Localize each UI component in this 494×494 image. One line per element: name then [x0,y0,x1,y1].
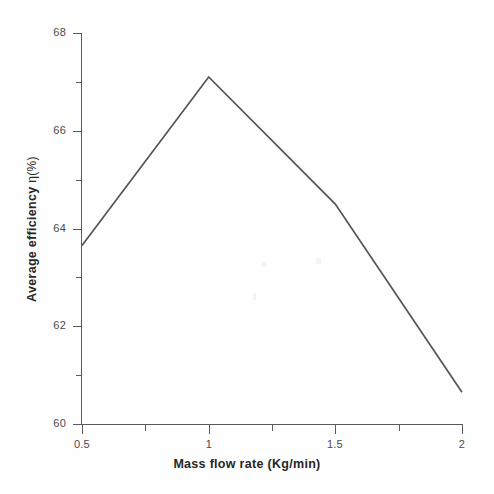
y-axis-title-symbol: η(%) [25,156,39,183]
x-axis-minor-tick [399,425,400,431]
y-axis-minor-tick [76,82,82,83]
y-axis-major-tick [73,424,82,425]
y-axis-minor-tick [76,277,82,278]
y-axis-minor-tick [76,180,82,181]
x-axis-major-tick [335,425,336,434]
x-axis-major-tick [209,425,210,434]
x-axis-tick-label: 1 [186,438,232,450]
y-axis-title: Average efficiency η(%) [25,114,39,344]
x-axis-tick-label: 2 [439,438,485,450]
x-axis-minor-tick [145,425,146,431]
y-axis-tick-label: 68 [22,26,66,40]
x-axis-minor-tick [272,425,273,431]
y-axis-minor-tick [76,375,82,376]
y-axis-title-text: Average efficiency [25,183,39,302]
y-axis-tick-label-text: 60 [26,417,66,429]
y-axis-major-tick [73,131,82,132]
y-axis-tick-label: 60 [22,417,66,431]
y-axis-major-tick [73,326,82,327]
y-axis-major-tick [73,229,82,230]
x-axis-tick-label: 1.5 [312,438,358,450]
scan-artifact [262,262,266,267]
x-axis-major-tick [82,425,83,434]
scan-artifact [253,293,256,300]
chart-figure: 68666462600.511.52 Average efficiency η(… [0,0,494,494]
data-series-line [0,0,494,494]
scan-artifact [316,258,321,264]
x-axis-tick-label: 0.5 [59,438,105,450]
y-axis-tick-label-text: 68 [26,26,66,38]
x-axis-title: Mass flow rate (Kg/min) [0,457,494,471]
x-axis-major-tick [462,425,463,434]
y-axis-major-tick [73,33,82,34]
